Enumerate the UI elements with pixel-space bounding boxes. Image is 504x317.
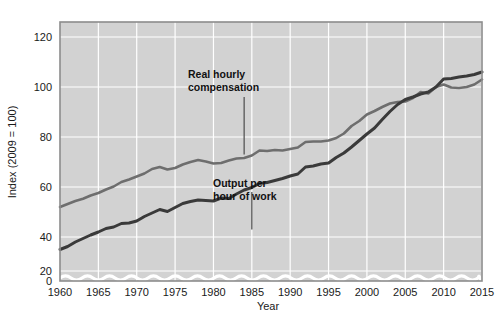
x-tick-label: 2010 [431,286,455,298]
x-tick-label: 1995 [316,286,340,298]
y-tick-label: 100 [34,81,52,93]
y-tick-label: 20 [40,265,52,277]
y-axis-title: Index (2009 = 100) [6,106,18,199]
y-tick-label: 120 [34,31,52,43]
x-tick-label: 1985 [240,286,264,298]
output-annotation-line-0: Output per [213,177,267,189]
x-tick-label: 2005 [393,286,417,298]
y-tick-label: 80 [40,131,52,143]
compensation-annotation-line-0: Real hourly [188,68,245,80]
x-tick-label: 2015 [470,286,494,298]
y-tick-label: 40 [40,231,52,243]
x-tick-label: 1965 [86,286,110,298]
x-tick-label: 1990 [278,286,302,298]
x-tick-label: 1960 [48,286,72,298]
y-tick-label: 60 [40,181,52,193]
output-annotation-line-1: hour of work [213,190,277,202]
x-tick-label: 1970 [124,286,148,298]
productivity-compensation-line-chart: 020406080100120 196019651970197519801985… [0,0,504,317]
x-tick-label: 1975 [163,286,187,298]
x-tick-label: 1980 [201,286,225,298]
x-axis-title: Year [257,300,280,312]
chart-figure: 020406080100120 196019651970197519801985… [0,0,504,317]
x-tick-label: 2000 [355,286,379,298]
compensation-annotation-line-1: compensation [188,81,259,93]
